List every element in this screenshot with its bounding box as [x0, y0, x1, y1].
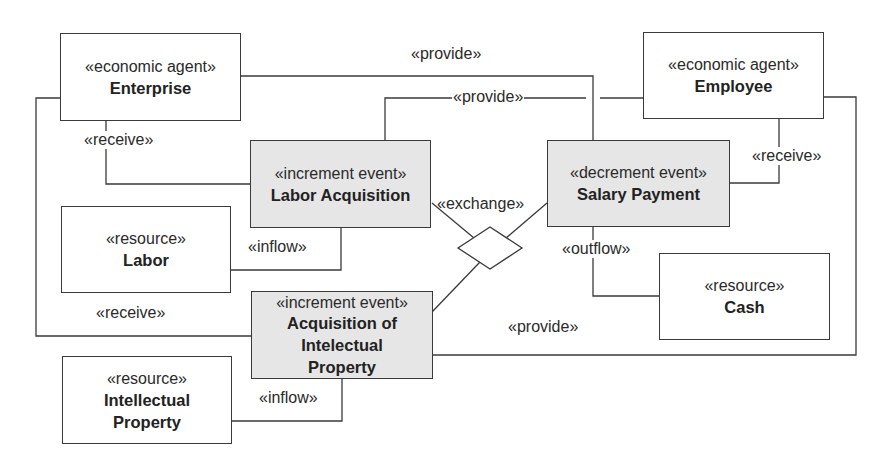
stereotype: «decrement event»: [570, 162, 707, 183]
label-exchange: «exchange»: [437, 195, 524, 213]
label-receive-outer: «receive»: [96, 304, 165, 322]
node-labor-acquisition[interactable]: «increment event» Labor Acquisition: [250, 140, 431, 228]
node-name-line: Intelectual: [301, 334, 383, 356]
stereotype: «increment event»: [276, 293, 408, 312]
label-receive-enterprise: «receive»: [84, 131, 153, 149]
connector-enterprise-labor-acq-receive: [106, 120, 250, 184]
rea-diagram: «economic agent» Enterprise «economic ag…: [0, 0, 888, 471]
node-name: Labor: [123, 249, 169, 271]
node-employee[interactable]: «economic agent» Employee: [643, 32, 824, 119]
node-name-line: Intellectual: [104, 389, 190, 411]
node-enterprise[interactable]: «economic agent» Enterprise: [60, 33, 241, 121]
label-inflow-labor: «inflow»: [248, 238, 307, 256]
stereotype: «resource»: [704, 275, 784, 296]
node-labor[interactable]: «resource» Labor: [61, 206, 231, 293]
stereotype: «increment event»: [275, 163, 407, 184]
node-name: Cash: [724, 296, 764, 318]
label-receive-employee: «receive»: [752, 147, 821, 165]
node-name-line: Acquisition of: [287, 312, 397, 334]
node-name-line: Property: [113, 411, 181, 433]
connector-exchange-acq-ip: [432, 262, 480, 312]
node-salary-payment[interactable]: «decrement event» Salary Payment: [547, 140, 730, 227]
label-provide-top: «provide»: [411, 45, 481, 63]
stereotype: «resource»: [106, 228, 186, 249]
connector-enterprise-salary-provide: [240, 76, 593, 140]
node-cash[interactable]: «resource» Cash: [659, 253, 830, 340]
node-intellectual-property[interactable]: «resource» Intellectual Property: [62, 356, 232, 444]
label-provide-mid: «provide»: [452, 88, 524, 106]
connector-cash-outflow: [593, 226, 659, 296]
node-name: Employee: [695, 75, 773, 97]
node-acquisition-ip[interactable]: «increment event» Acquisition of Intelec…: [251, 291, 433, 379]
stereotype: «economic agent»: [668, 54, 799, 75]
node-name: Salary Payment: [577, 183, 700, 205]
label-provide-bottom: «provide»: [508, 318, 578, 336]
node-name: Enterprise: [110, 77, 192, 99]
node-name: Labor Acquisition: [271, 184, 411, 206]
node-name-line: Property: [308, 356, 376, 378]
label-inflow-ip: «inflow»: [259, 389, 318, 407]
stereotype: «economic agent»: [85, 56, 216, 77]
stereotype: «resource»: [107, 368, 187, 389]
label-outflow-cash: «outflow»: [562, 240, 631, 258]
